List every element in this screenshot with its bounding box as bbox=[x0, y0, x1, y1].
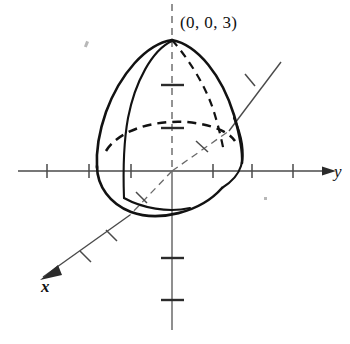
apex-coordinate-label: (0, 0, 3) bbox=[180, 14, 237, 31]
x-axis-label: x bbox=[41, 278, 50, 295]
scan-artifacts bbox=[84, 41, 267, 200]
figure-container: (0, 0, 3) y x bbox=[0, 0, 350, 344]
x-axis-inner-dashed-upper bbox=[172, 131, 229, 171]
axes-group bbox=[18, 4, 336, 330]
surface-right-lip bbox=[222, 118, 243, 188]
paraboloid-sketch-svg bbox=[0, 0, 350, 344]
base-ellipse-inner-front bbox=[124, 198, 190, 210]
y-axis-label: y bbox=[334, 163, 342, 180]
hidden-meridian-curve bbox=[172, 40, 224, 152]
surface-right-silhouette bbox=[172, 40, 242, 163]
